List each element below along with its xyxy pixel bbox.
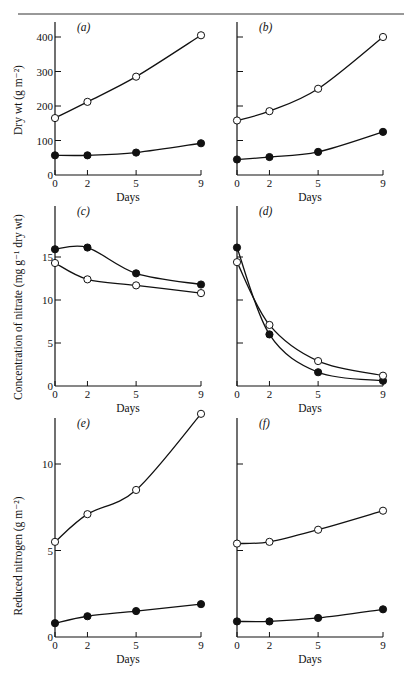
filled-data-point — [84, 244, 91, 251]
panel-label: (c) — [77, 205, 90, 218]
y-tick-label: 100 — [37, 135, 54, 147]
panel-d: 0259Days(d) — [233, 205, 386, 415]
filled-data-point — [133, 607, 140, 614]
series-curve — [55, 414, 201, 542]
filled-data-point — [266, 153, 273, 160]
x-axis-label: Days — [116, 653, 140, 666]
open-data-point — [133, 282, 140, 289]
open-data-point — [197, 290, 204, 297]
y-tick-label: 400 — [37, 31, 54, 43]
filled-data-point — [266, 618, 273, 625]
open-data-point — [233, 259, 240, 266]
x-tick-label: 5 — [133, 639, 139, 651]
y-axis-title-dry-wt: Dry wt (g m⁻²) — [12, 65, 25, 135]
open-data-point — [84, 98, 91, 105]
x-tick-label: 5 — [315, 177, 321, 189]
open-data-point — [233, 540, 240, 547]
series-curve — [237, 609, 383, 621]
series-curve — [55, 263, 201, 293]
open-data-point — [379, 507, 386, 514]
filled-data-point — [379, 606, 386, 613]
open-data-point — [379, 33, 386, 40]
open-data-point — [197, 410, 204, 417]
x-axis-label: Days — [298, 653, 322, 666]
y-tick-label: 5 — [48, 337, 54, 349]
x-tick-label: 2 — [267, 388, 273, 400]
filled-data-point — [51, 246, 58, 253]
open-data-point — [84, 511, 91, 518]
filled-data-point — [133, 270, 140, 277]
panel-label: (d) — [259, 205, 273, 218]
panel-b: 0259Days(b) — [233, 21, 386, 204]
filled-data-point — [315, 369, 322, 376]
x-tick-label: 0 — [52, 388, 58, 400]
x-tick-label: 5 — [315, 639, 321, 651]
x-tick-label: 9 — [380, 177, 386, 189]
x-tick-label: 0 — [52, 639, 58, 651]
panel-label: (b) — [259, 21, 273, 34]
filled-data-point — [133, 149, 140, 156]
open-data-point — [51, 538, 58, 545]
open-data-point — [266, 108, 273, 115]
filled-data-point — [315, 148, 322, 155]
y-tick-label: 10 — [42, 458, 54, 470]
series-curve — [237, 132, 383, 160]
filled-data-point — [51, 152, 58, 159]
series-curve — [55, 246, 201, 284]
filled-data-point — [233, 156, 240, 163]
series-curve — [55, 604, 201, 623]
series-curve — [237, 262, 383, 376]
x-tick-label: 0 — [234, 177, 240, 189]
x-axis-label: Days — [298, 402, 322, 415]
y-axis-title-nitrate: Concentration of nitrate (mg g⁻¹ dry wt) — [12, 214, 25, 400]
series-curve — [55, 143, 201, 155]
x-tick-label: 9 — [198, 177, 204, 189]
x-tick-label: 5 — [315, 388, 321, 400]
series-curve — [237, 511, 383, 544]
x-axis-label: Days — [116, 402, 140, 415]
open-data-point — [133, 73, 140, 80]
x-axis-label: Days — [298, 191, 322, 204]
x-tick-label: 2 — [267, 177, 273, 189]
open-data-point — [84, 276, 91, 283]
filled-data-point — [197, 281, 204, 288]
x-tick-label: 9 — [198, 388, 204, 400]
panel-label: (e) — [77, 417, 90, 430]
filled-data-point — [315, 614, 322, 621]
panel-label: (f) — [259, 417, 270, 430]
panel-f: 0259Days(f) — [233, 417, 386, 666]
y-tick-label: 0 — [48, 380, 54, 392]
x-axis-label: Days — [116, 191, 140, 204]
panel-a: 0259Days0100200300400(a) — [37, 21, 205, 204]
y-axis-title-reduced-n: Reduced nitrogen (g m⁻²) — [12, 496, 25, 615]
filled-data-point — [266, 331, 273, 338]
open-data-point — [197, 32, 204, 39]
x-tick-label: 9 — [198, 639, 204, 651]
filled-data-point — [233, 244, 240, 251]
filled-data-point — [84, 613, 91, 620]
open-data-point — [315, 85, 322, 92]
x-tick-label: 0 — [234, 639, 240, 651]
filled-data-point — [197, 140, 204, 147]
x-tick-label: 9 — [380, 388, 386, 400]
x-tick-label: 0 — [52, 177, 58, 189]
y-tick-label: 5 — [48, 545, 54, 557]
x-tick-label: 2 — [85, 177, 91, 189]
open-data-point — [51, 114, 58, 121]
x-tick-label: 5 — [133, 388, 139, 400]
x-tick-label: 2 — [85, 388, 91, 400]
filled-data-point — [84, 152, 91, 159]
open-data-point — [266, 321, 273, 328]
panel-c: 0259Days051015(c) — [42, 205, 205, 415]
figure-canvas: 0259Days0100200300400(a)0259Days(b)0259D… — [0, 0, 409, 685]
open-data-point — [379, 372, 386, 379]
x-tick-label: 2 — [85, 639, 91, 651]
filled-data-point — [379, 128, 386, 135]
open-data-point — [266, 538, 273, 545]
open-data-point — [51, 259, 58, 266]
x-tick-label: 0 — [234, 388, 240, 400]
filled-data-point — [51, 620, 58, 627]
open-data-point — [233, 117, 240, 124]
panel-e: 0259Days0510(e) — [42, 410, 205, 666]
x-tick-label: 5 — [133, 177, 139, 189]
